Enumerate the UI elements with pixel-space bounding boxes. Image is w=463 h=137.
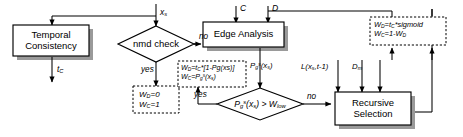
edge-label-nmd-no: no: [199, 33, 208, 41]
formula-weights-zero-one-line1: WD=0: [139, 90, 160, 100]
formula-box-weights-edge: WD=tC*[1-Pg(xs)] WC=Pgs(xs): [181, 64, 234, 82]
edge-label-threshold-no: no: [307, 93, 316, 101]
node-temporal-consistency[interactable]: Temporal Consistency: [13, 25, 89, 56]
formula-weights-edge-line2: WC=Pgs(xs): [181, 73, 234, 82]
formula-weights-edge-line1: WD=tC*[1-Pg(xs)]: [181, 64, 234, 73]
formula-box-weights-zero-one: WD=0 WC=1: [139, 90, 160, 110]
node-recursive-selection-line1: Recursive: [352, 98, 394, 109]
edge-label-output-tc: tC: [57, 65, 63, 75]
edge-label-input-xs: xs: [160, 8, 167, 18]
edge-label-input-c: C: [240, 4, 246, 13]
node-nmd-check-label: nmd check: [133, 39, 179, 50]
node-recursive-selection-line2: Selection: [352, 109, 394, 120]
edge-label-edge-prob: Pgs(xs): [250, 62, 273, 71]
formula-weights-zero-one-line2: WC=1: [139, 100, 160, 110]
node-nmd-check[interactable]: nmd check: [118, 33, 194, 55]
node-edge-analysis[interactable]: Edge Analysis: [203, 22, 284, 47]
node-threshold-check[interactable]: Pgs(xs) > Wlow: [219, 96, 301, 112]
node-edge-analysis-line1: Edge Analysis: [214, 29, 274, 40]
edge-label-nmd-yes: yes: [141, 66, 154, 74]
edge-label-input-d: D: [272, 4, 278, 13]
flowchart-canvas: Temporal Consistency Edge Analysis Recur…: [0, 0, 463, 137]
edge-label-dm: Dm: [352, 63, 362, 71]
formula-weights-sigmoid-line1: WD=tC*sigmoid: [374, 20, 423, 29]
edge-label-threshold-yes: yes: [194, 91, 207, 99]
node-threshold-check-label: Pgs(xs) > Wlow: [234, 99, 285, 109]
formula-box-weights-sigmoid: WD=tC*sigmoid WC=1-WD: [374, 20, 423, 38]
node-temporal-consistency-line2: Consistency: [25, 41, 77, 52]
node-temporal-consistency-line1: Temporal: [25, 30, 77, 41]
node-recursive-selection[interactable]: Recursive Selection: [335, 92, 411, 125]
edge-label-label-prev: L(xs,t-1): [301, 63, 328, 71]
formula-weights-sigmoid-line2: WC=1-WD: [374, 29, 423, 38]
